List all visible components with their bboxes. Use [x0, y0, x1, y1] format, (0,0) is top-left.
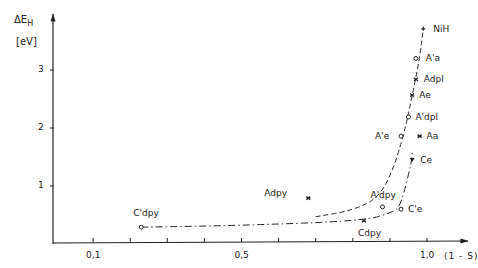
y-axis-title-subscript: H [27, 19, 33, 28]
point-cdpy-x-marker [362, 219, 366, 222]
point-cpdpy-open-circle-marker [139, 225, 143, 229]
point-aa-label: Aa [427, 132, 439, 141]
point-ae-x-marker [410, 93, 414, 96]
point-ape-label: A'e [375, 132, 389, 141]
x-tick-label: 1,0 [420, 251, 434, 260]
chart-canvas [0, 0, 478, 268]
y-axis-unit: [eV] [16, 37, 37, 47]
x-axis-title: (1 - S) [444, 252, 478, 261]
y-tick-label: 1 [38, 181, 44, 190]
y-tick-label: 2 [38, 123, 44, 132]
x-tick-label: 0,1 [86, 251, 100, 260]
point-cdpy-label: Cdpy [358, 229, 381, 238]
point-ce-filled-marker [410, 158, 415, 162]
point-apdpy-open-circle-marker [380, 205, 384, 209]
point-adpl-x-marker [414, 78, 418, 81]
point-apa-label: A'a [426, 54, 440, 63]
y-axis-title: ΔEH [14, 15, 33, 28]
point-apa-open-circle-marker [414, 56, 418, 60]
point-adpy-x-marker [306, 197, 310, 200]
point-ape-open-circle-marker [399, 134, 403, 138]
point-adpy-label: Adpy [264, 189, 287, 198]
point-nih-label: NiH [433, 25, 449, 34]
dashed-trend-curve [316, 29, 424, 217]
point-cpe-label: C'e [408, 205, 422, 214]
point-aa-x-marker [418, 135, 422, 138]
point-ae-label: Ae [419, 91, 431, 100]
x-axis-line [53, 241, 468, 243]
point-ce-label: Ce [420, 156, 432, 165]
point-apdpl-open-circle-marker [406, 115, 410, 119]
point-cpdpy-label: C'dpy [133, 209, 159, 218]
point-nih-plus-marker [421, 27, 425, 31]
y-axis-title-text: ΔE [14, 14, 27, 25]
point-apdpl-label: A'dpl [415, 113, 438, 122]
x-tick-label: 0,5 [235, 251, 249, 260]
y-tick-label: 3 [38, 65, 44, 74]
point-adpl-label: Adpl [424, 75, 444, 84]
point-apdpy-label: A'dpy [370, 191, 395, 200]
point-cpe-open-circle-marker [399, 207, 403, 211]
